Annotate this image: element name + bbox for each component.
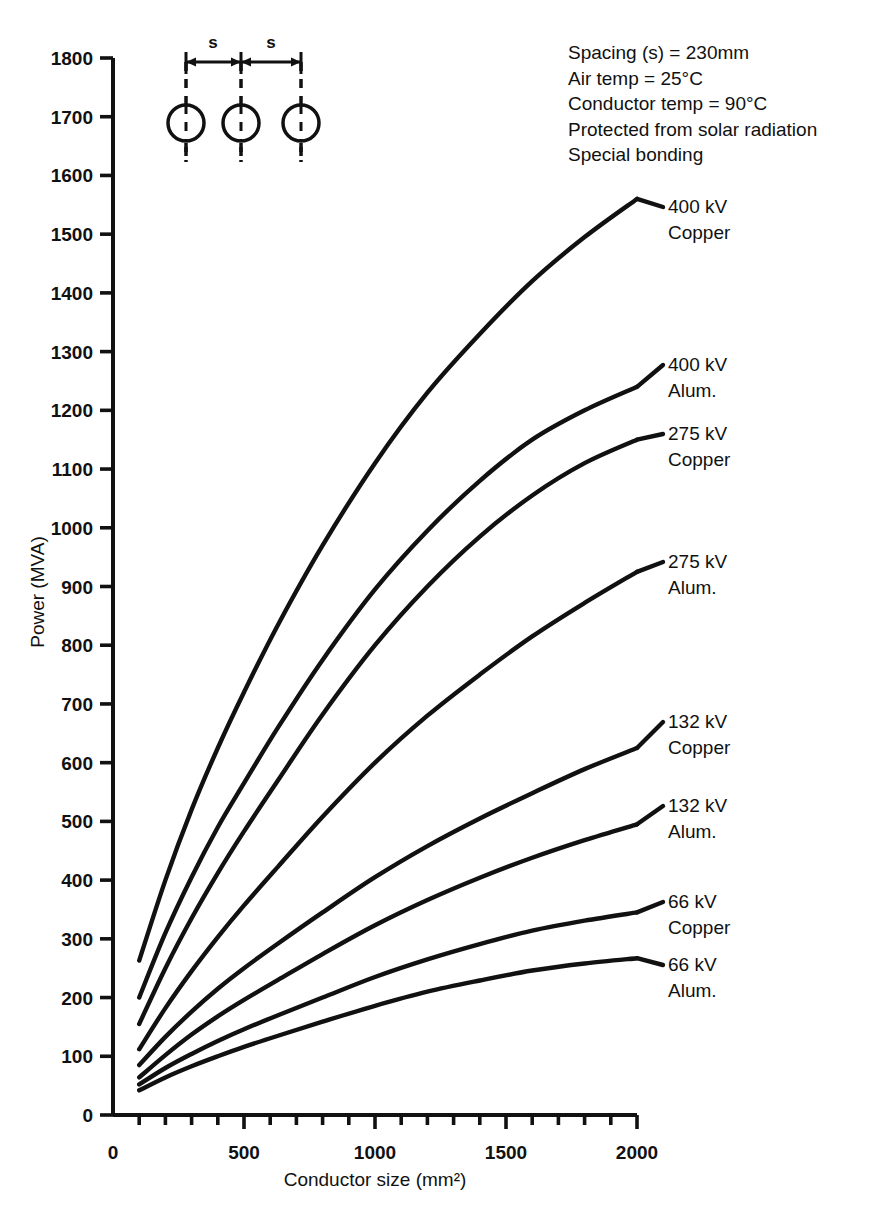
- conductor-spacing-inset: s s: [168, 33, 319, 162]
- y-tick-label-1100: 1100: [52, 459, 93, 480]
- power-vs-conductor-size-chart: 0100200300400500600700800900100011001200…: [0, 0, 887, 1214]
- curve-label-4-line2: Copper: [668, 737, 731, 758]
- curve-2: [139, 440, 637, 1024]
- spacing-label-right: s: [266, 33, 275, 52]
- note-line-4: Special bonding: [568, 144, 703, 165]
- x-tick-label-1500: 1500: [485, 1142, 527, 1163]
- data-curves: [139, 199, 637, 1090]
- y-tick-label-200: 200: [61, 988, 93, 1009]
- y-tick-label-1400: 1400: [51, 283, 93, 304]
- y-axis-title: Power (MVA): [27, 536, 48, 648]
- curve-1: [139, 387, 637, 998]
- note-line-3: Protected from solar radiation: [568, 119, 817, 140]
- leader-2: [637, 434, 663, 440]
- y-tick-label-600: 600: [61, 753, 93, 774]
- y-tick-label-100: 100: [61, 1046, 93, 1067]
- curve-label-3-line1: 275 kV: [668, 551, 727, 572]
- y-tick-label-1800: 1800: [51, 48, 93, 69]
- note-line-0: Spacing (s) = 230mm: [568, 42, 749, 63]
- x-axis-ticks: [139, 1115, 637, 1129]
- curve-label-leader-lines: [637, 199, 663, 965]
- curve-label-7-line2: Alum.: [668, 980, 717, 1001]
- leader-3: [637, 562, 663, 572]
- curve-3: [139, 572, 637, 1049]
- y-tick-label-1600: 1600: [51, 165, 93, 186]
- curve-label-6-line2: Copper: [668, 917, 731, 938]
- y-tick-label-0: 0: [82, 1105, 93, 1126]
- conditions-note: Spacing (s) = 230mmAir temp = 25°CConduc…: [568, 42, 817, 165]
- leader-5: [637, 806, 663, 824]
- curve-label-5-line1: 132 kV: [668, 795, 727, 816]
- curve-label-6-line1: 66 kV: [668, 891, 717, 912]
- x-tick-label-500: 500: [228, 1142, 260, 1163]
- y-tick-label-800: 800: [61, 635, 93, 656]
- curve-label-3-line2: Alum.: [668, 577, 717, 598]
- y-tick-label-500: 500: [61, 811, 93, 832]
- curve-label-7-line1: 66 kV: [668, 954, 717, 975]
- y-tick-label-900: 900: [61, 577, 93, 598]
- y-tick-label-1000: 1000: [51, 518, 93, 539]
- note-line-2: Conductor temp = 90°C: [568, 93, 767, 114]
- curve-label-1-line1: 400 kV: [668, 354, 727, 375]
- y-axis-tick-labels: 0100200300400500600700800900100011001200…: [51, 48, 93, 1126]
- y-tick-label-400: 400: [61, 870, 93, 891]
- x-axis-title: Conductor size (mm²): [284, 1169, 467, 1190]
- note-line-1: Air temp = 25°C: [568, 68, 703, 89]
- curve-label-0-line1: 400 kV: [668, 196, 727, 217]
- x-tick-label-0: 0: [108, 1142, 119, 1163]
- leader-6: [637, 902, 663, 912]
- y-tick-label-1300: 1300: [51, 342, 93, 363]
- curve-label-1-line2: Alum.: [668, 380, 717, 401]
- leader-4: [637, 722, 663, 748]
- curve-label-5-line2: Alum.: [668, 821, 717, 842]
- curve-labels: 400 kVCopper400 kVAlum.275 kVCopper275 k…: [668, 196, 731, 1001]
- chart-page: 0100200300400500600700800900100011001200…: [0, 0, 887, 1214]
- y-tick-label-700: 700: [61, 694, 93, 715]
- spacing-label-left: s: [208, 33, 217, 52]
- leader-7: [637, 958, 663, 965]
- curve-label-0-line2: Copper: [668, 222, 731, 243]
- curve-5: [139, 824, 637, 1077]
- curve-label-4-line1: 132 kV: [668, 711, 727, 732]
- y-tick-label-300: 300: [61, 929, 93, 950]
- curve-7: [139, 958, 637, 1090]
- leader-0: [637, 199, 663, 207]
- curve-label-2-line1: 275 kV: [668, 423, 727, 444]
- y-tick-label-1700: 1700: [51, 107, 93, 128]
- curve-label-2-line2: Copper: [668, 449, 731, 470]
- x-tick-label-2000: 2000: [616, 1142, 658, 1163]
- leader-1: [637, 365, 663, 387]
- y-tick-label-1200: 1200: [51, 400, 93, 421]
- x-axis-tick-labels: 0500100015002000: [108, 1142, 658, 1163]
- x-tick-label-1000: 1000: [354, 1142, 396, 1163]
- y-tick-label-1500: 1500: [51, 224, 93, 245]
